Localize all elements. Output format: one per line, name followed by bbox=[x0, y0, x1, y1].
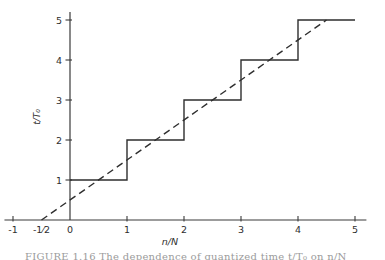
x-tick-label: 5 bbox=[352, 224, 358, 235]
x-tick-label: -1 bbox=[8, 224, 17, 235]
x-axis-title: n/N bbox=[162, 236, 178, 247]
y-tick-label: 1 bbox=[56, 175, 62, 186]
x-tick-label: 4 bbox=[295, 224, 301, 235]
axes bbox=[4, 12, 366, 220]
x-tick-label: -1⁄2 bbox=[33, 224, 50, 235]
figure-caption: FIGURE 1.16 The dependence of quantized … bbox=[25, 250, 375, 260]
x-tick-label: 1 bbox=[124, 224, 130, 235]
tick-labels: -1-1⁄201234512345 bbox=[8, 15, 358, 236]
step-function-chart: -1-1⁄201234512345n/Nt/T₀ bbox=[0, 0, 385, 248]
series-ideal-dashed-line bbox=[42, 20, 327, 220]
y-tick-label: 4 bbox=[56, 55, 62, 66]
x-tick-label: 3 bbox=[238, 224, 244, 235]
y-axis-title: t/T₀ bbox=[32, 109, 42, 125]
y-tick-label: 5 bbox=[56, 15, 62, 26]
y-tick-label: 3 bbox=[56, 95, 62, 106]
figure-page: -1-1⁄201234512345n/Nt/T₀ FIGURE 1.16 The… bbox=[0, 0, 385, 260]
x-tick-label: 2 bbox=[181, 224, 187, 235]
x-tick-label: 0 bbox=[67, 224, 73, 235]
y-tick-label: 2 bbox=[56, 135, 62, 146]
